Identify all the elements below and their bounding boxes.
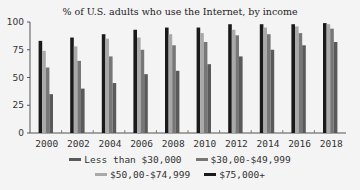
y-tick-label: 50: [13, 73, 25, 83]
x-tick-label: 2004: [99, 138, 122, 149]
legend-row-2: $50,00-$74,999 $75,000+: [0, 169, 360, 180]
legend-label: $75,000+: [219, 169, 265, 180]
bar: [228, 24, 232, 133]
bar: [330, 29, 334, 133]
x-tick-label: 2018: [320, 138, 343, 149]
bar-chart: 0255075100200020022004200620082010201220…: [0, 0, 360, 152]
bar: [144, 74, 148, 133]
bar: [260, 24, 264, 133]
bar: [235, 35, 239, 133]
bar: [204, 42, 208, 133]
bar: [102, 34, 106, 133]
x-tick-label: 2000: [35, 138, 58, 149]
x-tick-label: 2014: [257, 138, 280, 149]
bar: [299, 33, 303, 133]
bar: [70, 38, 74, 133]
x-tick-label: 2012: [225, 138, 248, 149]
legend-swatch: [204, 173, 216, 176]
bar: [49, 94, 53, 133]
x-tick-label: 2010: [193, 138, 216, 149]
bar: [302, 45, 306, 133]
bar: [42, 51, 46, 133]
y-tick-label: 100: [7, 17, 24, 27]
bar: [327, 24, 331, 133]
y-tick-label: 25: [13, 100, 24, 110]
y-tick-label: 75: [13, 45, 24, 55]
bar: [165, 28, 169, 133]
y-tick-label: 0: [18, 128, 24, 138]
legend-item-50000-74999: $50,00-$74,999: [95, 169, 190, 180]
bar: [263, 28, 267, 133]
legend-swatch: [196, 158, 208, 161]
bar: [77, 61, 81, 133]
bar: [74, 46, 78, 133]
bar: [113, 83, 117, 133]
bar: [176, 71, 180, 133]
bar: [295, 26, 299, 133]
bar: [232, 30, 236, 133]
bar: [239, 56, 243, 133]
legend-item-less-than-30000: Less than $30,000: [69, 154, 181, 165]
bars: [39, 23, 338, 133]
legend-label: $30,00-$49,999: [211, 154, 291, 165]
legend-label: $50,00-$74,999: [110, 169, 190, 180]
bar: [207, 64, 211, 133]
bar: [105, 39, 109, 133]
bar: [197, 28, 201, 133]
bar: [133, 30, 137, 133]
legend-item-30000-49999: $30,00-$49,999: [196, 154, 291, 165]
legend-label: Less than $30,000: [84, 154, 181, 165]
legend-row-1: Less than $30,000 $30,00-$49,999: [0, 154, 360, 165]
x-tick-label: 2016: [288, 138, 311, 149]
bar: [109, 56, 113, 133]
legend-item-75000-plus: $75,000+: [204, 169, 265, 180]
bar: [46, 68, 50, 133]
bar: [334, 42, 338, 133]
bar: [323, 23, 327, 133]
x-tick-label: 2008: [162, 138, 185, 149]
x-tick-label: 2002: [67, 138, 90, 149]
bar: [137, 38, 141, 133]
bar: [172, 45, 176, 133]
legend-swatch: [95, 173, 107, 176]
bar: [200, 33, 204, 133]
bar: [291, 24, 295, 133]
bar: [141, 50, 145, 133]
bar: [267, 34, 271, 133]
x-tick-label: 2006: [130, 138, 153, 149]
bar: [39, 41, 43, 133]
bar: [81, 89, 85, 133]
bar: [169, 34, 173, 133]
legend-swatch: [69, 158, 81, 161]
bar: [271, 50, 275, 133]
